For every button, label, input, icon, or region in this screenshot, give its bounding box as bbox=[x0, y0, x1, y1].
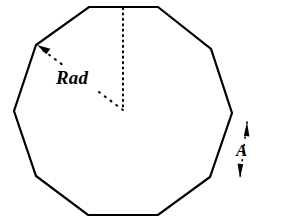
side-measure-up-arrowhead-icon bbox=[244, 122, 250, 136]
decagon-diagram-svg bbox=[0, 0, 289, 222]
decagon-outline-group bbox=[14, 7, 232, 215]
side-measure-down-arrowhead-icon bbox=[238, 164, 244, 178]
radius-label: Rad bbox=[56, 68, 88, 87]
side-length-label: A bbox=[236, 142, 247, 159]
decagon-outline bbox=[14, 7, 232, 215]
geometry-figure: Rad A bbox=[0, 0, 289, 222]
